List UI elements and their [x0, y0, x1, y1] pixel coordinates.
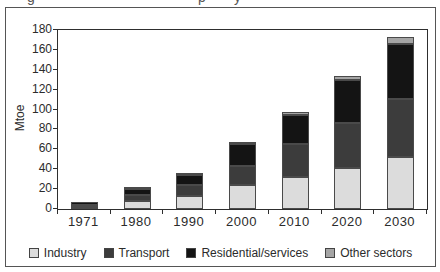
caption-fragment: p [198, 0, 206, 5]
bar-segment-transport [176, 185, 203, 196]
bar-1971 [71, 202, 98, 209]
legend-item-transport: Transport [104, 246, 170, 260]
y-tick-label: 0 [16, 200, 52, 216]
bar-segment-industry [229, 185, 256, 209]
bar-segment-industry [176, 196, 203, 209]
cropped-caption: g p y [0, 0, 440, 6]
bar-1990 [176, 173, 203, 209]
legend-item-other-sectors: Other sectors [325, 246, 412, 260]
y-axis-title: Mtoe [13, 88, 29, 148]
bar-segment-transport [282, 144, 309, 177]
y-tick-label: 180 [16, 21, 52, 37]
bar-2010 [282, 112, 309, 209]
y-tick-label: 140 [16, 61, 52, 77]
bar-segment-residential-services [334, 80, 361, 123]
x-tick-label: 2030 [373, 213, 426, 231]
bar-segment-transport [229, 166, 256, 185]
legend-swatch-transport [104, 248, 114, 258]
legend-label: Industry [44, 246, 87, 260]
bar-segment-industry [124, 201, 151, 209]
y-tick-label: 120 [16, 81, 52, 97]
bar-segment-industry [387, 157, 414, 209]
x-tick-mark [426, 210, 427, 214]
bar-segment-industry [282, 177, 309, 209]
legend-swatch-industry [29, 248, 39, 258]
chart-frame: Mtoe 180160140120100806040200 1971198019… [5, 7, 436, 267]
x-tick-label: 1990 [162, 213, 215, 231]
legend-swatch-other-sectors [325, 248, 335, 258]
x-tick-label: 2020 [321, 213, 374, 231]
bar-segment-transport [387, 99, 414, 157]
y-tick-label: 60 [16, 140, 52, 156]
plot-area [57, 29, 428, 210]
legend-label: Other sectors [340, 246, 412, 260]
bar-segment-residential-services [282, 115, 309, 144]
legend-swatch-residential-services [186, 248, 196, 258]
x-tick-label: 2010 [268, 213, 321, 231]
x-tick-label: 2000 [215, 213, 268, 231]
bar-1980 [124, 187, 151, 209]
chart-screenshot: g p y Mtoe 180160140120100806040200 1971… [0, 0, 440, 272]
bar-2030 [387, 37, 414, 209]
legend-item-industry: Industry [29, 246, 87, 260]
y-tick-label: 20 [16, 180, 52, 196]
caption-fragment: g [27, 0, 35, 5]
bar-segment-industry [71, 207, 98, 209]
bar-2020 [334, 76, 361, 209]
y-tick-label: 160 [16, 41, 52, 57]
y-tick-label: 100 [16, 101, 52, 117]
x-tick-label: 1971 [57, 213, 110, 231]
legend: IndustryTransportResidential/servicesOth… [6, 244, 435, 262]
legend-item-residential-services: Residential/services [186, 246, 308, 260]
y-tick-label: 80 [16, 120, 52, 136]
caption-fragment: y [234, 0, 241, 5]
legend-label: Transport [119, 246, 170, 260]
bar-2000 [229, 142, 256, 209]
y-tick-label: 40 [16, 160, 52, 176]
bar-segment-residential-services [229, 144, 256, 166]
x-tick-label: 1980 [110, 213, 163, 231]
bar-segment-residential-services [387, 44, 414, 99]
bar-segment-other-sectors [387, 37, 414, 44]
bar-segment-industry [334, 168, 361, 209]
legend-label: Residential/services [201, 246, 308, 260]
bar-segment-transport [334, 123, 361, 168]
bar-segment-residential-services [176, 175, 203, 185]
